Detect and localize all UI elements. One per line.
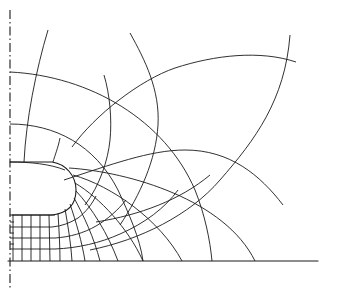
field-line	[10, 124, 143, 261]
field-line	[58, 213, 60, 261]
field-line	[69, 168, 255, 261]
field-line	[73, 175, 182, 261]
grid-lines-under-electrode	[10, 190, 178, 249]
field-lines	[10, 72, 255, 261]
equipotential-line	[64, 150, 283, 205]
equipotential-line	[120, 33, 158, 225]
equipotential-line	[24, 30, 48, 162]
electrode-outline	[10, 162, 76, 215]
field-line	[65, 209, 72, 261]
field-line	[75, 183, 143, 261]
grid-horizontal-line	[10, 200, 126, 238]
equipotential-lines	[24, 30, 296, 250]
equipotential-line	[72, 55, 296, 147]
field-line	[49, 215, 50, 261]
field-plot-diagram	[0, 0, 350, 291]
equipotential-line	[53, 138, 60, 162]
grid-horizontal-line	[10, 196, 96, 227]
equipotential-line	[85, 75, 111, 205]
